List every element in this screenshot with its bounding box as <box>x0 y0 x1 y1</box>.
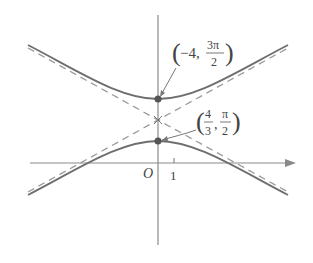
svg-text:): ) <box>232 107 241 136</box>
hyperbola-figure: ( −4, 3π 2 ) ( 4 3 , π 2 ) O 1 <box>0 0 313 263</box>
svg-text:−4,: −4, <box>180 45 200 61</box>
upper-leader-arrow-icon <box>160 90 165 97</box>
svg-text:): ) <box>225 38 234 67</box>
svg-text:π: π <box>222 107 228 121</box>
upper-point-label: ( −4, 3π 2 ) <box>172 38 234 69</box>
x-axis-arrow-icon <box>285 159 296 167</box>
origin-label: O <box>143 166 153 181</box>
svg-text:,: , <box>214 117 218 132</box>
upper-leader-line <box>161 68 176 95</box>
svg-text:4: 4 <box>205 107 211 121</box>
svg-text:3π: 3π <box>207 38 219 52</box>
x-tick-label: 1 <box>170 168 177 183</box>
lower-vertex-point <box>155 138 162 145</box>
svg-text:2: 2 <box>211 55 217 69</box>
svg-text:3: 3 <box>205 124 211 138</box>
svg-text:(: ( <box>196 107 205 136</box>
lower-point-label: ( 4 3 , π 2 ) <box>196 107 241 138</box>
svg-text:2: 2 <box>222 124 228 138</box>
lower-leader-arrow-icon <box>161 136 168 141</box>
